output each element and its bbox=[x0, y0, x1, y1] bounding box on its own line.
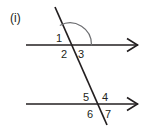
part-label: (i) bbox=[10, 11, 21, 25]
angle-arc-upper-icon bbox=[60, 23, 91, 45]
angle-label-3: 3 bbox=[78, 48, 84, 60]
angle-label-2: 2 bbox=[61, 48, 67, 60]
angle-label-1: 1 bbox=[56, 32, 62, 44]
angle-label-4: 4 bbox=[102, 91, 108, 103]
geometry-figure-container: 1 2 3 5 4 6 7 (i) bbox=[0, 0, 147, 127]
angle-label-5: 5 bbox=[83, 91, 89, 103]
angle-label-7: 7 bbox=[105, 108, 111, 120]
geometry-figure-canvas: 1 2 3 5 4 6 7 (i) bbox=[0, 0, 147, 127]
angle-label-6: 6 bbox=[87, 108, 93, 120]
